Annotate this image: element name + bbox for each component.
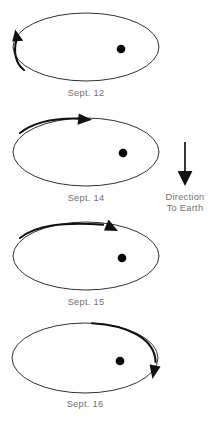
frame-sept-14: Sept. 14 [13, 113, 159, 203]
frame-label: Sept. 16 [67, 399, 104, 409]
direction-to-earth-legend: Direction To Earth [166, 142, 205, 213]
pulsar-dot [118, 254, 127, 263]
orbit-ellipse [13, 222, 159, 290]
frame-label: Sept. 14 [68, 193, 105, 203]
orbit-ellipse [13, 13, 159, 81]
legend-label-line1: Direction [166, 192, 205, 202]
orbit-sequence-diagram: Sept. 12 Sept. 14 Sept. 15 [0, 0, 213, 422]
orbit-arrow-head [150, 365, 161, 379]
orbit-ellipse [13, 118, 159, 186]
pulsar-dot [117, 45, 126, 54]
orbit-arrow-shaft [20, 224, 103, 238]
orbit-arrow-shaft [92, 323, 156, 362]
orbit-arrow-head [78, 113, 93, 124]
frame-label: Sept. 15 [68, 297, 105, 307]
frame-label: Sept. 12 [68, 88, 105, 98]
frame-sept-16: Sept. 16 [12, 323, 161, 409]
orbit-diagram-canvas: Sept. 12 Sept. 14 Sept. 15 [0, 0, 213, 422]
legend-arrow-head [178, 171, 193, 186]
pulsar-dot [119, 149, 128, 158]
direction-to-earth-arrow [178, 142, 193, 186]
pulsar-dot [116, 357, 125, 366]
orbit-direction-arrow [92, 323, 161, 379]
orbit-direction-arrow [20, 220, 118, 238]
frame-sept-15: Sept. 15 [13, 220, 159, 307]
frame-sept-12: Sept. 12 [12, 13, 159, 98]
orbit-arrow-shaft [15, 40, 24, 70]
legend-label-line2: To Earth [167, 203, 204, 213]
